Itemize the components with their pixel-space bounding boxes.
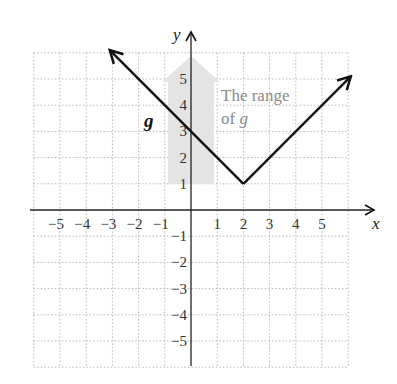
x-axis-label: x bbox=[371, 214, 380, 233]
y-tick-label: 2 bbox=[180, 150, 188, 166]
x-tick-label: −3 bbox=[100, 216, 116, 232]
y-tick-label: −2 bbox=[171, 254, 187, 270]
graph-of-g: x y −5−4−3−2−112345 54321−1−2−3−4−5 g Th… bbox=[0, 0, 397, 384]
y-tick-label: −1 bbox=[171, 228, 187, 244]
y-tick-label: −4 bbox=[171, 307, 187, 323]
y-tick-label: 5 bbox=[180, 71, 188, 87]
x-tick-label: −4 bbox=[74, 216, 90, 232]
x-tick-label: −2 bbox=[127, 216, 143, 232]
x-tick-label: 4 bbox=[292, 216, 300, 232]
y-tick-label: −5 bbox=[171, 333, 187, 349]
y-axis-label: y bbox=[171, 25, 181, 44]
x-tick-label: 5 bbox=[318, 216, 326, 232]
function-label-g: g bbox=[143, 110, 154, 131]
y-tick-label: −3 bbox=[171, 281, 187, 297]
x-tick-label: −5 bbox=[48, 216, 64, 232]
x-tick-label: 2 bbox=[240, 216, 248, 232]
y-tick-label: 4 bbox=[180, 97, 188, 113]
x-tick-label: 3 bbox=[266, 216, 274, 232]
x-tick-label: −1 bbox=[153, 216, 169, 232]
range-annotation-line1: The range bbox=[221, 86, 289, 105]
x-tick-label: 1 bbox=[213, 216, 221, 232]
range-annotation-line2: of g bbox=[221, 109, 248, 128]
y-tick-label: 1 bbox=[180, 176, 188, 192]
